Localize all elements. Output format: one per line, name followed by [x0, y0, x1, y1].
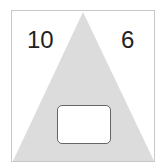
answer-box[interactable] [57, 105, 111, 144]
right-number: 6 [121, 28, 134, 52]
left-number: 10 [27, 28, 54, 52]
